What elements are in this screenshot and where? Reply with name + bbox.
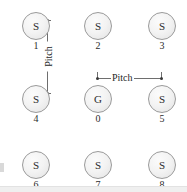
node-4-disc: S: [22, 85, 50, 113]
node-8[interactable]: S 8: [148, 151, 178, 181]
scan-edge-artifact: [0, 163, 4, 172]
horizontal-pitch-right-dot: [160, 77, 163, 80]
node-0-caption: 0: [84, 113, 112, 124]
horizontal-pitch-label: Pitch: [111, 72, 134, 83]
node-6-glyph: S: [33, 159, 39, 170]
horizontal-pitch-left-dot: [96, 77, 99, 80]
node-7-glyph: S: [95, 159, 101, 170]
node-5-disc: S: [148, 85, 176, 113]
node-8-glyph: S: [159, 159, 165, 170]
node-3-disc: S: [148, 12, 176, 40]
node-8-disc: S: [148, 151, 176, 179]
node-6-disc: S: [22, 151, 50, 179]
node-3[interactable]: S 3: [148, 12, 178, 42]
node-3-caption: 3: [148, 40, 176, 51]
node-0[interactable]: G 0: [84, 85, 114, 115]
node-1-glyph: S: [33, 20, 39, 31]
node-7[interactable]: S 7: [84, 151, 114, 181]
sensor-array-diagram: Pitch Pitch S 1 S 2 S 3 S 4 G: [0, 0, 187, 192]
node-5[interactable]: S 5: [148, 85, 178, 115]
node-4-glyph: S: [33, 93, 39, 104]
node-2-disc: S: [84, 12, 112, 40]
node-2-glyph: S: [95, 20, 101, 31]
node-1-disc: S: [22, 12, 50, 40]
node-6[interactable]: S 6: [22, 151, 52, 181]
node-4[interactable]: S 4: [22, 85, 52, 115]
node-1-caption: 1: [22, 40, 50, 51]
node-1[interactable]: S 1: [22, 12, 52, 42]
node-0-glyph: G: [94, 93, 102, 104]
node-5-glyph: S: [159, 93, 165, 104]
page-bottom-rule: [0, 186, 187, 187]
node-2[interactable]: S 2: [84, 12, 114, 42]
node-2-caption: 2: [84, 40, 112, 51]
node-5-caption: 5: [148, 113, 176, 124]
node-4-caption: 4: [22, 113, 50, 124]
node-7-disc: S: [84, 151, 112, 179]
node-0-disc: G: [84, 85, 112, 113]
node-3-glyph: S: [159, 20, 165, 31]
